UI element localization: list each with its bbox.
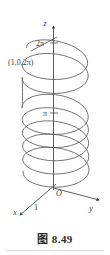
annotation-helix-endpoint: (1,0,2π) — [8, 58, 34, 67]
unit-marker — [40, 188, 46, 194]
tick-label-two-pi: 2π — [36, 39, 44, 48]
origin-label: O — [56, 189, 62, 198]
figure-container: z 2π π (1,0,2π) O 1 y x 图 8.49 — [0, 0, 110, 255]
tick-label-pi: π — [43, 109, 47, 118]
x-axis-label: x — [12, 208, 17, 217]
figure-caption: 图 8.49 — [37, 233, 72, 245]
tick-label-one: 1 — [34, 203, 38, 212]
x-axis-line — [20, 184, 56, 215]
z-axis-label: z — [42, 19, 47, 28]
helix-diagram: z 2π π (1,0,2π) O 1 y x — [0, 0, 110, 255]
figure-caption-row: 图 8.49 — [0, 229, 110, 247]
y-axis-label: y — [88, 204, 93, 213]
bottom-divider — [6, 250, 104, 251]
